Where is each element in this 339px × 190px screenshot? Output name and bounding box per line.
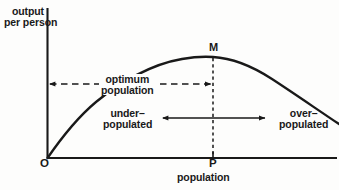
origin-label: O [40,158,49,170]
y-axis-label-line2: per person [4,16,57,28]
under-populated-label: under–populated [103,108,152,129]
y-axis-label: outputper person [4,6,44,27]
under-populated-label-line2: populated [103,118,152,130]
x-axis-label: population [177,172,230,183]
diagram-canvas [0,0,339,190]
curve-peak-label: M [209,42,218,53]
optimum-population-label-line2: population [101,84,154,96]
p-point-label: P [209,158,217,170]
population-output-diagram: outputper person population M O P optimu… [0,0,339,190]
over-populated-label-line2: populated [279,118,328,130]
optimum-population-label: optimumpopulation [99,74,156,95]
over-populated-label: over–populated [279,108,328,129]
